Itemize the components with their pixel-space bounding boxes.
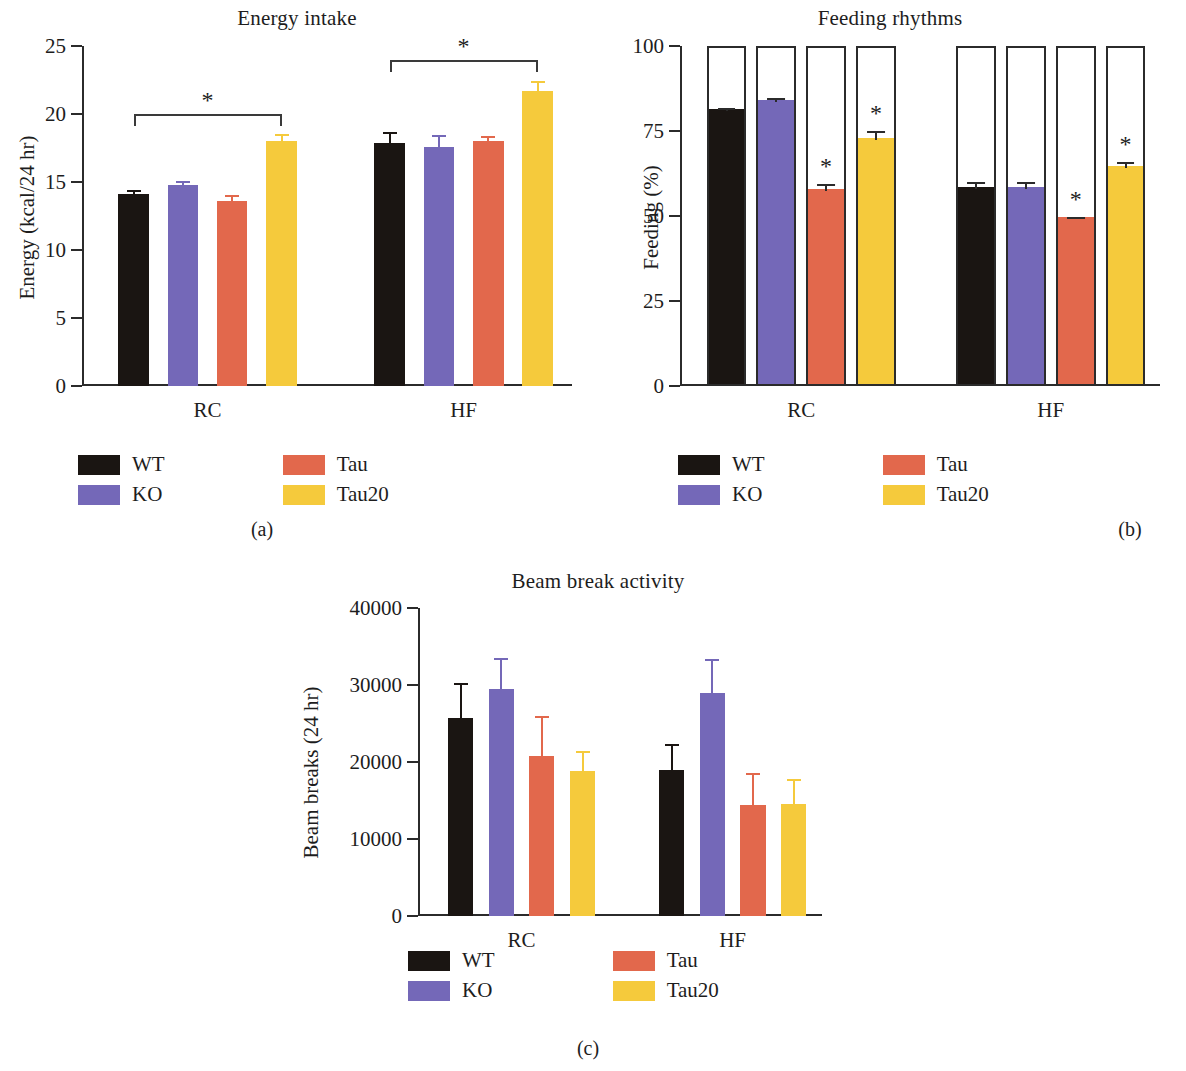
bar-wt-rc (118, 194, 149, 386)
significance-asterisk: * (1120, 132, 1132, 156)
bar-fill (1008, 187, 1044, 384)
panel-b-plot-area: 0255075100**RC**HF (680, 46, 1160, 386)
legend-label-wt: WT (132, 452, 165, 477)
error-bar (537, 81, 539, 91)
y-tick (407, 607, 418, 609)
y-tick (669, 215, 680, 217)
y-tick-label: 0 (392, 904, 403, 929)
legend-item-tau: Tau (283, 452, 389, 477)
legend-swatch-tau (283, 455, 325, 475)
y-tick (71, 385, 82, 387)
error-bar-cap (787, 779, 801, 781)
panel-a-plot-area: 0510152025RCHF** (82, 46, 572, 386)
error-bar (671, 744, 673, 771)
error-bar-cap (1117, 162, 1135, 164)
error-bar (726, 108, 728, 111)
significance-asterisk: * (202, 88, 214, 112)
x-group-label-hf: HF (719, 928, 746, 953)
significance-asterisk: * (1070, 187, 1082, 211)
panel-b-caption: (b) (1118, 518, 1141, 541)
significance-bracket: * (134, 114, 282, 126)
error-bar (487, 136, 489, 141)
legend-swatch-wt (408, 951, 450, 971)
error-bar-cap (481, 136, 495, 138)
y-tick-label: 0 (56, 374, 67, 399)
y-tick-label: 10 (45, 238, 66, 263)
bar-tau20-hf (781, 804, 806, 916)
bar-fill (958, 187, 994, 384)
panel-c-caption: (c) (577, 1037, 599, 1060)
significance-bracket: * (390, 60, 538, 72)
legend-label-ko: KO (462, 978, 492, 1003)
bar-ko-rc (489, 689, 514, 916)
y-tick (71, 113, 82, 115)
y-tick-label: 100 (633, 34, 665, 59)
bar-fill (808, 189, 844, 385)
error-bar (793, 779, 795, 804)
error-bar-cap (1017, 182, 1035, 184)
legend-item-ko: KO (408, 978, 495, 1003)
bar-ko-hf (700, 693, 725, 916)
error-bar-cap (817, 184, 835, 186)
panel-c-beam-break-activity: Beam break activity Beam breaks (24 hr) … (288, 565, 908, 1071)
x-group-label-hf: HF (450, 398, 477, 423)
error-bar-cap (718, 108, 736, 110)
error-bar (541, 716, 543, 756)
error-bar (281, 134, 283, 141)
legend-item-tau20: Tau20 (283, 482, 389, 507)
panel-b-legend: WT Tau KO Tau20 (678, 452, 989, 507)
error-bar (752, 773, 754, 805)
y-tick (71, 249, 82, 251)
error-bar (460, 683, 462, 718)
legend-item-tau20: Tau20 (883, 482, 989, 507)
y-tick (669, 385, 680, 387)
panel-a-title: Energy intake (0, 6, 594, 31)
y-tick-label: 10000 (350, 827, 403, 852)
bar-tau-hf (740, 805, 765, 916)
panel-a-y-axis (82, 46, 84, 386)
x-group-label-rc: RC (194, 398, 222, 423)
error-bar-cap (275, 134, 289, 136)
bar-tau20-rc (266, 141, 297, 386)
error-bar (438, 135, 440, 147)
x-group-label-rc: RC (787, 398, 815, 423)
y-tick (407, 761, 418, 763)
panel-a-legend: WT Tau KO Tau20 (78, 452, 389, 507)
bar-fill (1108, 166, 1144, 384)
y-tick-label: 15 (45, 170, 66, 195)
legend-item-wt: WT (408, 948, 495, 973)
bar-tau-rc (529, 756, 554, 916)
error-bar (975, 182, 977, 189)
error-bar (231, 195, 233, 201)
error-bar-cap (127, 190, 141, 192)
bar-ko-rc (168, 185, 199, 386)
y-tick-label: 25 (643, 289, 664, 314)
legend-item-ko: KO (678, 482, 765, 507)
legend-swatch-tau (613, 951, 655, 971)
bar-ko-rc (756, 46, 796, 386)
y-tick (71, 317, 82, 319)
panel-c-y-axis (418, 608, 420, 916)
error-bar (825, 184, 827, 191)
bar-wt-hf (956, 46, 996, 386)
error-bar (582, 751, 584, 771)
bar-fill (858, 138, 894, 385)
legend-swatch-wt (78, 455, 120, 475)
legend-label-tau20: Tau20 (937, 482, 989, 507)
y-tick (407, 684, 418, 686)
error-bar (1125, 162, 1127, 169)
error-bar-cap (705, 659, 719, 661)
bar-fill (709, 109, 745, 384)
error-bar-cap (867, 131, 885, 133)
bar-wt-hf (374, 143, 405, 386)
error-bar (875, 131, 877, 140)
error-bar-cap (665, 744, 679, 746)
y-tick-label: 20 (45, 102, 66, 127)
error-bar (775, 98, 777, 102)
legend-swatch-tau20 (883, 485, 925, 505)
y-tick-label: 30000 (350, 673, 403, 698)
legend-swatch-tau20 (613, 981, 655, 1001)
bar-tau-rc (806, 46, 846, 386)
bar-tau-hf (1056, 46, 1096, 386)
y-tick (407, 838, 418, 840)
